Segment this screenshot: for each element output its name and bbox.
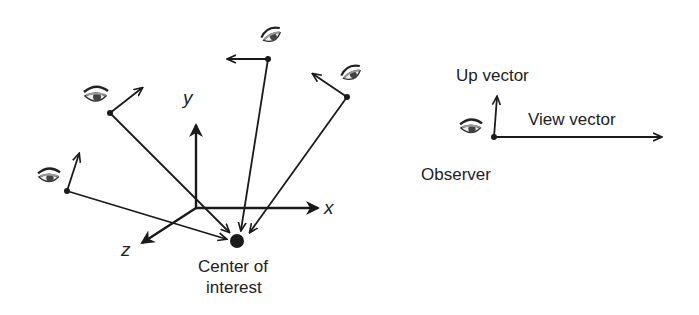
y-axis-label: y	[183, 88, 193, 107]
x-axis-label: x	[324, 198, 334, 217]
z-axis-label: z	[121, 240, 131, 259]
view-lines	[67, 59, 347, 239]
eye-icon	[84, 87, 108, 101]
eye-icons	[38, 25, 482, 182]
observer-label: Observer	[421, 165, 491, 184]
up-vector-arrow	[494, 97, 497, 137]
eye-icon	[460, 120, 482, 133]
observer-point	[491, 134, 497, 140]
up-vectors	[67, 59, 347, 191]
view-vector-label: View vector	[528, 110, 616, 129]
eye-icon	[339, 63, 363, 83]
up-vector-label: Up vector	[456, 66, 529, 85]
center-of-interest-point	[230, 234, 244, 248]
observer-points	[64, 56, 350, 194]
center-label-line2: interest	[206, 278, 262, 297]
world-axes	[142, 125, 318, 243]
camera-diagram	[0, 0, 699, 315]
center-label-line1: Center of	[198, 257, 268, 276]
eye-icon	[259, 25, 283, 45]
eye-icon	[38, 169, 60, 182]
z-axis	[142, 208, 196, 243]
